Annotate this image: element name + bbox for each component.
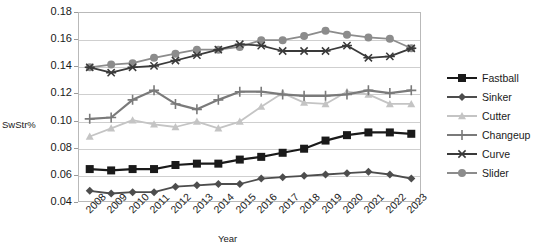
- data-point-diamond: [279, 173, 287, 181]
- data-point-square: [129, 165, 137, 173]
- data-point-diamond: [322, 171, 330, 179]
- legend-label: Curve: [482, 148, 510, 160]
- data-point-cross: [385, 88, 395, 98]
- data-point-diamond: [129, 188, 137, 196]
- data-point-square: [364, 128, 372, 136]
- data-point-square: [236, 156, 244, 164]
- data-point-star: [363, 54, 373, 61]
- data-point-circle: [171, 50, 179, 58]
- data-point-cross: [256, 87, 266, 97]
- series-changeup: [85, 85, 417, 124]
- series-curve: [85, 41, 417, 77]
- data-point-square: [300, 145, 308, 153]
- data-point-star: [299, 47, 309, 54]
- data-point-circle: [322, 27, 330, 35]
- data-point-star: [321, 47, 331, 54]
- data-point-cross: [299, 91, 309, 101]
- data-point-diamond: [193, 181, 201, 189]
- data-point-square: [343, 131, 351, 139]
- legend-key-icon: [447, 110, 477, 122]
- data-point-star: [106, 69, 116, 76]
- legend-item-sinker[interactable]: Sinker: [447, 87, 533, 106]
- chart-figure: SwStr% 0.040.060.080.100.120.140.160.18 …: [0, 0, 533, 248]
- data-point-diamond: [364, 168, 372, 176]
- legend-label: Sinker: [482, 91, 512, 103]
- data-point-square: [407, 130, 415, 138]
- data-point-square: [86, 165, 94, 173]
- data-point-triangle: [257, 103, 265, 110]
- data-point-cross: [278, 89, 288, 99]
- legend-item-fastball[interactable]: Fastball: [447, 68, 533, 87]
- data-point-triangle: [458, 112, 466, 119]
- legend-key-icon: [447, 167, 477, 179]
- legend-key-icon: [447, 91, 477, 103]
- data-point-square: [386, 128, 394, 136]
- data-point-square: [150, 165, 158, 173]
- legend-marker-icon: [447, 91, 477, 103]
- data-point-square: [279, 149, 287, 157]
- legend-item-curve[interactable]: Curve: [447, 144, 533, 163]
- data-point-cross: [192, 104, 202, 114]
- series-line: [90, 172, 412, 194]
- data-point-square: [171, 161, 179, 169]
- data-point-square: [458, 74, 466, 82]
- data-point-diamond: [407, 175, 415, 183]
- data-point-diamond: [236, 180, 244, 188]
- y-axis-tick-label: 0.12: [32, 87, 72, 98]
- data-point-star: [149, 62, 159, 69]
- y-axis-tick-label: 0.10: [32, 115, 72, 126]
- data-point-star: [457, 150, 467, 157]
- y-axis-tick-label: 0.06: [32, 169, 72, 180]
- series-line: [90, 44, 412, 73]
- y-axis-tick-label: 0.16: [32, 33, 72, 44]
- series-fastball: [86, 128, 416, 174]
- data-point-diamond: [86, 187, 94, 195]
- legend-marker-icon: [447, 110, 477, 122]
- data-point-diamond: [257, 175, 265, 183]
- data-point-triangle: [129, 116, 137, 123]
- series-line: [90, 31, 412, 68]
- data-point-cross: [85, 114, 95, 124]
- y-axis-tick-label: 0.04: [32, 196, 72, 207]
- data-point-circle: [343, 31, 351, 39]
- data-point-cross: [457, 130, 467, 140]
- legend-key-icon: [447, 148, 477, 160]
- data-point-triangle: [193, 118, 201, 125]
- y-axis-tick-label: 0.08: [32, 142, 72, 153]
- plot-area: [78, 12, 421, 202]
- data-point-cross: [321, 91, 331, 101]
- legend-label: Slider: [482, 167, 509, 179]
- data-point-circle: [279, 36, 287, 44]
- data-point-diamond: [458, 93, 466, 101]
- legend: FastballSinkerCutterChangeupCurveSlider: [447, 68, 533, 182]
- data-point-circle: [300, 32, 308, 40]
- legend-marker-icon: [447, 72, 477, 84]
- series-line: [90, 132, 412, 170]
- legend-label: Fastball: [482, 72, 519, 84]
- legend-marker-icon: [447, 167, 477, 179]
- data-point-diamond: [343, 169, 351, 177]
- data-point-square: [193, 160, 201, 168]
- data-point-circle: [129, 59, 137, 67]
- data-point-cross: [342, 89, 352, 99]
- data-point-star: [170, 57, 180, 64]
- y-axis-tick-label: 0.14: [32, 60, 72, 71]
- data-point-square: [107, 166, 115, 174]
- data-point-square: [257, 153, 265, 161]
- data-point-diamond: [300, 172, 308, 180]
- legend-label: Changeup: [482, 129, 530, 141]
- legend-item-changeup[interactable]: Changeup: [447, 125, 533, 144]
- data-point-circle: [386, 35, 394, 43]
- data-point-star: [278, 47, 288, 54]
- data-point-diamond: [171, 183, 179, 191]
- legend-marker-icon: [447, 129, 477, 141]
- legend-item-cutter[interactable]: Cutter: [447, 106, 533, 125]
- legend-item-slider[interactable]: Slider: [447, 163, 533, 182]
- data-point-cross: [213, 95, 223, 105]
- series-layer: [79, 13, 422, 203]
- legend-label: Cutter: [482, 110, 511, 122]
- data-point-cross: [235, 87, 245, 97]
- legend-key-icon: [447, 129, 477, 141]
- data-point-circle: [364, 33, 372, 41]
- data-point-star: [342, 42, 352, 49]
